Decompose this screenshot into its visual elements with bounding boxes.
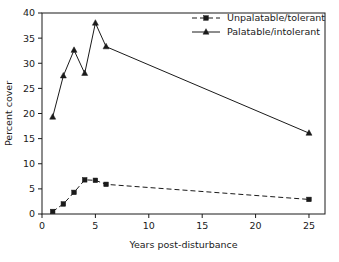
legend-label: Unpalatable/tolerant: [227, 12, 325, 23]
chart-background: [0, 0, 339, 262]
legend-marker-swatch: [204, 16, 209, 21]
x-tick-label: 25: [303, 220, 315, 231]
y-tick-label: 25: [23, 83, 35, 94]
y-tick-label: 0: [29, 208, 35, 219]
x-tick-label: 10: [143, 220, 155, 231]
x-axis-title: Years post-disturbance: [128, 239, 237, 250]
data-point-square: [61, 202, 66, 207]
y-tick-label: 30: [23, 58, 35, 69]
y-tick-label: 20: [23, 108, 35, 119]
data-point-square: [93, 178, 98, 183]
data-point-square: [72, 190, 77, 195]
line-chart: 0510152025303540 0510152025 Unpalatable/…: [0, 0, 339, 262]
y-axis-title: Percent cover: [3, 81, 14, 146]
x-tick-label: 20: [250, 220, 262, 231]
data-point-square: [82, 178, 87, 183]
y-tick-label: 40: [23, 7, 35, 18]
legend-label: Palatable/intolerant: [227, 26, 320, 37]
data-point-square: [104, 182, 109, 187]
y-tick-label: 10: [23, 158, 35, 169]
data-point-square: [307, 197, 312, 202]
data-point-square: [50, 209, 55, 214]
y-tick-label: 15: [23, 133, 35, 144]
x-tick-label: 5: [92, 220, 98, 231]
y-tick-label: 35: [23, 33, 35, 44]
chart-figure: 0510152025303540 0510152025 Unpalatable/…: [0, 0, 339, 262]
y-tick-label: 5: [29, 183, 35, 194]
x-tick-label: 15: [196, 220, 208, 231]
x-tick-label: 0: [39, 220, 45, 231]
